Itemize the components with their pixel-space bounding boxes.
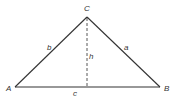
vertex-c-label: C [84,4,90,13]
altitude-h-label: h [89,52,94,61]
side-a-label: a [124,43,129,52]
side-b-line [15,17,87,87]
side-a-line [87,17,160,87]
vertex-b-label: B [164,84,170,93]
side-c-label: c [73,89,77,98]
vertex-a-label: A [5,84,11,93]
side-b-label: b [47,43,52,52]
triangle-figure: C A B b a h c [0,0,178,98]
triangle-diagram: C A B b a h c [0,0,178,98]
